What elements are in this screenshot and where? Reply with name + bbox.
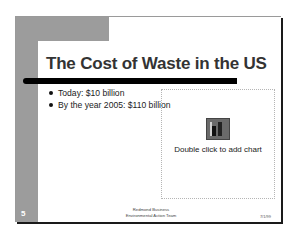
- footer-text: Redmond Business Environmental Action Te…: [106, 207, 196, 219]
- bullet-item: By the year 2005: $110 billion: [48, 100, 173, 110]
- bullet-item: Today: $10 billion: [48, 88, 173, 98]
- slide-number: 5: [21, 209, 25, 218]
- left-gray-band: [16, 17, 38, 222]
- chart-icon[interactable]: [206, 118, 230, 140]
- slide-title[interactable]: The Cost of Waste in the US: [46, 54, 267, 74]
- bullet-dot-icon: [49, 103, 53, 107]
- chart-placeholder[interactable]: Double click to add chart: [161, 89, 275, 199]
- bullet-dot-icon: [49, 91, 53, 95]
- bullet-list[interactable]: Today: $10 billion By the year 2005: $11…: [48, 88, 173, 111]
- footer-line-2: Environmental Action Team: [106, 213, 196, 219]
- chart-placeholder-label: Double click to add chart: [162, 145, 274, 154]
- bullet-text: By the year 2005: $110 billion: [58, 100, 171, 110]
- slide-date: 7/1/99: [260, 214, 271, 219]
- slide: The Cost of Waste in the US Today: $10 b…: [15, 16, 281, 222]
- chart-icon-bar: [218, 122, 222, 136]
- bullet-text: Today: $10 billion: [58, 88, 124, 98]
- chart-icon-bar: [212, 126, 216, 136]
- title-underline-bar: [23, 78, 237, 84]
- top-gray-band: [16, 17, 109, 41]
